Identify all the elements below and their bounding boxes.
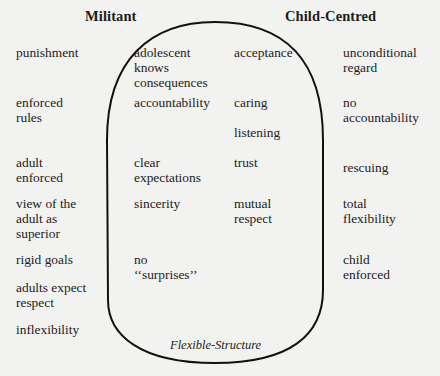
header-militant: Militant bbox=[85, 8, 137, 25]
child-centred-item: total flexibility bbox=[343, 196, 396, 226]
flexible-left-item: sincerity bbox=[134, 196, 180, 211]
militant-item: rigid goals bbox=[16, 252, 73, 267]
flexible-left-item: adolescent knows consequences bbox=[134, 45, 208, 90]
child-centred-item: no accountability bbox=[343, 95, 419, 125]
child-centred-item: child enforced bbox=[343, 252, 390, 282]
parenting-styles-diagram: Militant Child-Centred punishment enforc… bbox=[0, 0, 440, 376]
header-child-centred: Child-Centred bbox=[285, 8, 376, 25]
militant-item: enforced rules bbox=[16, 95, 63, 125]
child-centred-item: unconditional regard bbox=[343, 45, 417, 75]
flexible-right-item: acceptance bbox=[234, 45, 293, 60]
militant-item: view of the adult as superior bbox=[16, 196, 76, 241]
militant-item: adult enforced bbox=[16, 155, 63, 185]
child-centred-item: rescuing bbox=[343, 160, 388, 175]
flexible-right-item: mutual respect bbox=[234, 196, 272, 226]
flexible-left-item: accountability bbox=[134, 95, 210, 110]
militant-item: inflexibility bbox=[16, 322, 79, 337]
flexible-right-item: caring bbox=[234, 95, 267, 110]
militant-item: punishment bbox=[16, 45, 79, 60]
flexible-left-item: no ‘‘surprises’’ bbox=[134, 252, 197, 282]
flexible-structure-caption: Flexible-Structure bbox=[170, 338, 261, 353]
flexible-right-item: listening bbox=[234, 125, 280, 140]
militant-item: adults expect respect bbox=[16, 280, 86, 310]
flexible-left-item: clear expectations bbox=[134, 155, 201, 185]
flexible-right-item: trust bbox=[234, 155, 258, 170]
